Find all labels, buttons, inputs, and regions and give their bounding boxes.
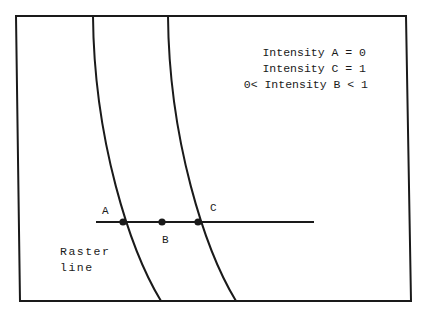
point-c-dot — [194, 218, 201, 225]
legend-intensity-a: Intensity A = 0 — [262, 46, 366, 59]
point-b-label: B — [162, 234, 169, 246]
point-c-label: C — [210, 202, 217, 214]
legend-intensity-c: Intensity C = 1 — [262, 62, 366, 75]
point-b-dot — [158, 218, 165, 225]
raster-label-line2: line — [60, 261, 94, 274]
scan-conversion-diagram: A B C Raster line Intensity A = 0 Intens… — [0, 0, 424, 316]
point-a-label: A — [102, 205, 109, 217]
right-edge-curve — [168, 16, 236, 301]
legend-intensity-b: 0< Intensity B < 1 — [244, 78, 368, 91]
point-a-dot — [119, 218, 126, 225]
raster-label-line1: Raster — [60, 245, 110, 258]
left-edge-curve — [93, 16, 161, 301]
